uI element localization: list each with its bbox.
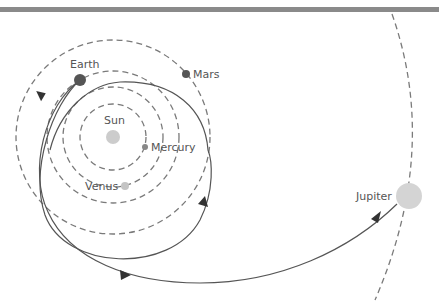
- solar-system-diagram: Sun Mercury Venus Earth Mars Jupiter: [0, 0, 439, 304]
- arrow-icon: [198, 196, 208, 207]
- jupiter-body: [396, 183, 422, 209]
- earth-loop-trajectory: [40, 80, 211, 259]
- mercury-label: Mercury: [151, 141, 196, 154]
- mars-body: [182, 70, 190, 78]
- jupiter-label: Jupiter: [355, 190, 392, 203]
- earth-label: Earth: [70, 58, 100, 71]
- arrow-icon: [371, 211, 381, 223]
- mercury-body: [142, 144, 148, 150]
- earth-body: [74, 74, 86, 86]
- venus-label: Venus: [85, 180, 118, 193]
- jupiter-orbit: [375, 14, 412, 300]
- mars-label: Mars: [193, 68, 220, 81]
- arrow-icon: [120, 270, 131, 280]
- arrow-icon: [36, 89, 47, 101]
- venus-body: [121, 182, 129, 190]
- sun-body: [106, 130, 120, 144]
- sun-label: Sun: [104, 114, 125, 127]
